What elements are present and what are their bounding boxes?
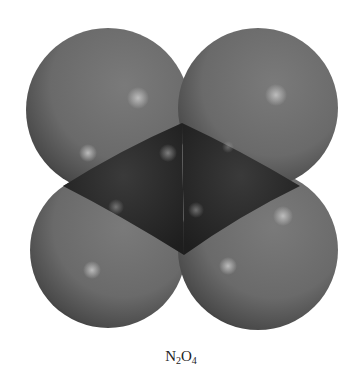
molecule-formula-caption: N2O4	[0, 348, 362, 366]
n2o4-molecule-model	[0, 0, 362, 340]
